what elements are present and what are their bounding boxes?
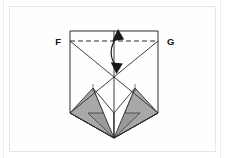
figure-root: F G [0, 0, 228, 158]
vertex-label-f: F [55, 36, 61, 47]
vertex-label-g: G [167, 36, 174, 47]
fold-arrow-head-down-icon [111, 62, 123, 74]
fold-diagram-svg: F G [0, 0, 228, 158]
